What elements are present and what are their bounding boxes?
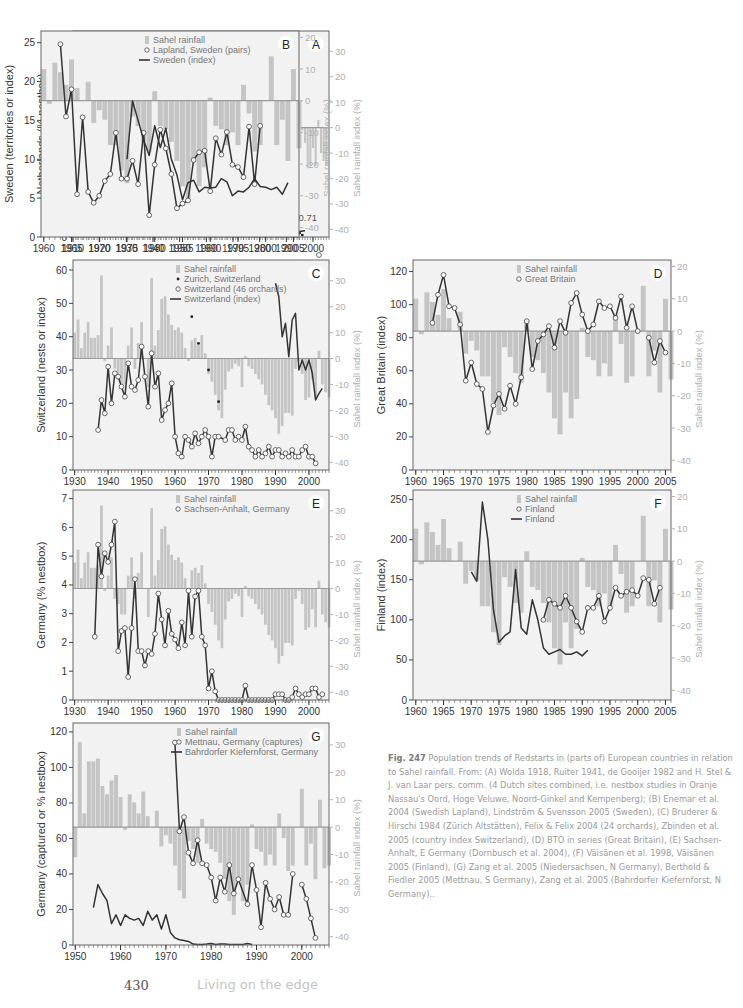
svg-text:0: 0 [677,326,682,337]
svg-text:10: 10 [335,557,346,568]
svg-text:100: 100 [50,762,67,773]
svg-text:10: 10 [335,794,346,805]
svg-text:1990: 1990 [199,243,222,254]
chart-F-svg: 050100150200250-40-30-20-100102019601965… [372,485,743,717]
svg-text:2005: 2005 [654,706,677,717]
svg-text:-40: -40 [335,931,349,942]
svg-text:0: 0 [29,232,35,243]
svg-text:5: 5 [61,551,67,562]
svg-text:1940: 1940 [97,706,120,717]
svg-text:120: 120 [390,266,407,277]
svg-text:-20: -20 [335,635,349,646]
svg-text:20: 20 [24,76,36,87]
svg-text:1985: 1985 [171,243,194,254]
svg-text:-30: -30 [335,661,349,672]
y-axis-title: Switzerland (nests or index) [35,297,47,433]
right-axis: -40-30-20-1001020 [299,32,319,233]
chart-panel-C: 0102030405060-40-30-20-10010203019301940… [0,255,372,485]
svg-text:1980: 1980 [516,706,539,717]
x-axis: 1960196519701975198019851990199520002005 [33,237,305,254]
svg-text:1980: 1980 [200,951,223,962]
svg-text:20: 20 [677,261,688,272]
svg-text:1965: 1965 [60,243,83,254]
page-number: 430 [124,978,149,993]
figure-caption: Fig. 247 Population trends of Redstarts … [388,752,733,902]
svg-text:100: 100 [390,299,407,310]
svg-text:30: 30 [335,505,346,516]
svg-text:60: 60 [56,833,68,844]
svg-text:2005: 2005 [282,243,305,254]
svg-text:15: 15 [24,115,36,126]
chart-panel-D: 020406080100120-40-30-20-100102019601965… [372,255,743,485]
svg-text:Zurich, Switzerland: Zurich, Switzerland [184,274,261,284]
svg-text:20: 20 [56,904,68,915]
svg-text:25: 25 [24,37,36,48]
svg-text:0: 0 [335,583,340,594]
svg-text:20: 20 [305,32,316,43]
svg-text:-30: -30 [305,190,319,201]
svg-text:50: 50 [396,654,408,665]
svg-text:0: 0 [401,465,407,476]
svg-text:Sahel rainfall: Sahel rainfall [184,494,236,504]
svg-text:Finland: Finland [525,504,555,514]
svg-text:-30: -30 [677,653,691,664]
svg-text:0: 0 [335,353,340,364]
y2-axis-title: Sahel rainfall index (%) [351,560,362,658]
plot-area [73,490,329,700]
x-axis: 1960196519701975198019851990199520002005 [405,700,677,717]
svg-text:-20: -20 [335,405,349,416]
svg-text:1990: 1990 [264,706,287,717]
y2-axis-title: Sahel rainfall index (%) [351,330,362,428]
svg-text:7: 7 [61,493,67,504]
svg-text:1995: 1995 [227,243,250,254]
svg-text:1970: 1970 [197,706,220,717]
svg-text:-40: -40 [677,455,691,466]
y2-axis-title: Sahel rainfall index (%) [693,330,704,428]
svg-text:Finland: Finland [525,514,555,524]
svg-text:5: 5 [29,193,35,204]
svg-text:1930: 1930 [64,706,87,717]
svg-text:-10: -10 [305,127,319,138]
svg-text:60: 60 [396,365,408,376]
svg-text:0: 0 [401,695,407,706]
panel-letter: F [654,497,661,511]
svg-text:-40: -40 [677,685,691,696]
right-axis: -40-30-20-100102030 [329,739,349,942]
svg-text:0: 0 [61,465,67,476]
figure-caption-text: Population trends of Redstarts in (parts… [388,753,733,899]
svg-text:20: 20 [677,491,688,502]
chart-C-svg: 0102030405060-40-30-20-10010203019301940… [0,255,372,485]
svg-text:Sahel rainfall: Sahel rainfall [525,494,577,504]
svg-text:Bahrdorfer Kiefernforst, Germa: Bahrdorfer Kiefernforst, Germany [185,747,319,757]
chart-G-svg: 020406080100120-40-30-20-100102030195019… [0,717,372,962]
chart-E-svg: 01234567-40-30-20-1001020301930194019501… [0,485,372,717]
left-axis: 050100150200250 [390,494,413,705]
svg-text:-40: -40 [335,687,349,698]
svg-text:Sahel rainfall: Sahel rainfall [153,35,205,45]
svg-text:Great Britain: Great Britain [525,274,576,284]
svg-text:1980: 1980 [144,243,167,254]
y-axis-title: Germany (% nestbox) [35,542,47,649]
figure-label: Fig. 247 [388,753,426,763]
svg-text:20: 20 [396,431,408,442]
svg-text:Sahel rainfall: Sahel rainfall [184,264,236,274]
svg-text:1960: 1960 [164,706,187,717]
left-axis: 0510152025 [24,37,41,242]
left-axis: 020406080100120 [390,266,413,475]
chart-panel-B: 0510152025-40-30-20-10010201960196519701… [0,0,371,255]
svg-text:10: 10 [677,293,688,304]
y2-axis-title: Sahel rainfall index (%) [693,560,704,658]
legend: Sahel rainfallGreat Britain [517,264,577,284]
svg-text:30: 30 [56,365,68,376]
svg-text:-20: -20 [677,620,691,631]
svg-text:20: 20 [335,767,346,778]
svg-text:-10: -10 [335,849,349,860]
left-axis: 01234567 [61,493,73,705]
right-axis: -40-30-20-1001020 [671,491,691,696]
svg-text:10: 10 [305,64,316,75]
svg-text:50: 50 [56,298,68,309]
svg-text:-20: -20 [305,159,319,170]
svg-text:250: 250 [390,494,407,505]
svg-text:10: 10 [677,523,688,534]
svg-text:-40: -40 [335,457,349,468]
